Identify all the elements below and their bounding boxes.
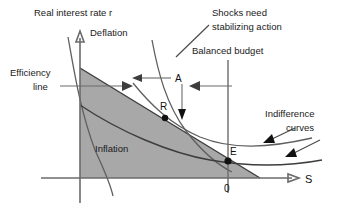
deflation-label: Deflation (90, 27, 128, 38)
indifference-label-line1: Indifference (265, 108, 314, 119)
indifference-label-line2: curves (286, 122, 314, 133)
diagram-canvas: Real interest rate r Deflation Efficienc… (0, 0, 342, 211)
shocks-label-line2: stabilizing action (212, 21, 282, 32)
balanced-budget-label: Balanced budget (192, 45, 264, 56)
indifference-arrowhead-2 (285, 148, 297, 157)
deflation-right-arrowhead (189, 81, 200, 91)
x-axis-label: S (305, 173, 312, 185)
point-a-label: A (175, 73, 182, 84)
point-a-arrowhead (132, 74, 142, 82)
efficiency-label-line1: Efficiency (10, 67, 51, 78)
point-r-label: R (160, 101, 167, 112)
inflation-label: Inflation (95, 143, 128, 154)
point-e-label: E (230, 146, 237, 157)
indifference-pointer-2 (294, 140, 320, 153)
y-axis-label: Real interest rate r (34, 7, 112, 18)
origin-label: 0 (224, 183, 230, 194)
indifference-arrowhead-1 (263, 134, 275, 143)
point-e-marker (224, 157, 231, 164)
shocks-label-line1: Shocks need (212, 7, 267, 18)
point-r-marker (162, 115, 168, 121)
efficiency-label-line2: line (33, 81, 48, 92)
efficiency-line-arrowhead (122, 81, 133, 91)
policy-diagram-svg: Real interest rate r Deflation Efficienc… (0, 0, 342, 211)
adjustment-down-arrowhead (178, 109, 186, 120)
